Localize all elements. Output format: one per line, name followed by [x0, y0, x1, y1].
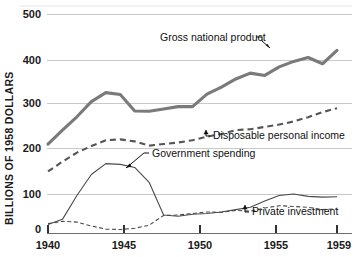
x-tick-label-1955: 1955	[264, 239, 288, 251]
x-tick-label-1959: 1959	[327, 239, 351, 251]
y-tick-label-400: 400	[23, 54, 41, 66]
leader-arrowhead-dpi	[203, 130, 208, 134]
economic-indicators-line-chart: 500 400 300 200 100 0 1940 1945 1950 195…	[0, 0, 358, 257]
series-label-private-investment: Private investment	[252, 205, 338, 217]
x-tick-label-1950: 1950	[188, 239, 212, 251]
series-label-disposable-personal-income: Disposable personal income	[213, 129, 345, 141]
y-tick-label-300: 300	[23, 97, 41, 109]
y-tick-label-200: 200	[23, 142, 41, 154]
series-label-government-spending: Government spending	[152, 147, 255, 159]
leader-arrowhead-inv	[242, 205, 247, 209]
x-axis-ticks	[48, 225, 337, 233]
y-axis-title: BILLIONS OF 1958 DOLLARS	[3, 71, 15, 225]
x-tick-label-1945: 1945	[112, 239, 136, 251]
y-tick-label-100: 100	[23, 188, 41, 200]
y-tick-label-500: 500	[23, 8, 41, 20]
chart-container: 500 400 300 200 100 0 1940 1945 1950 195…	[0, 0, 358, 257]
x-tick-label-1940: 1940	[36, 239, 60, 251]
y-tick-label-0: 0	[35, 223, 41, 235]
series-label-gross-national-product: Gross national product	[160, 31, 266, 43]
